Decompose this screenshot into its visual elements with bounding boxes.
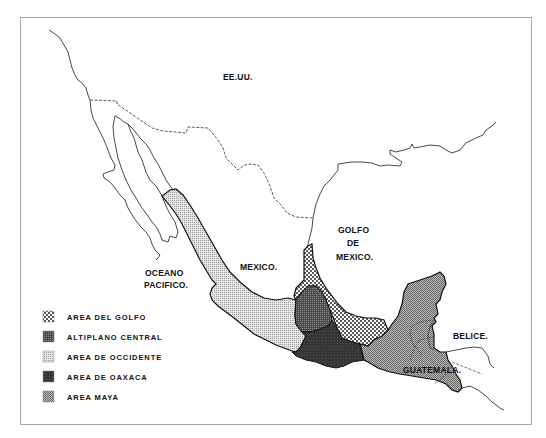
label-gulf-1: GOLFO [338, 225, 369, 235]
legend-label-occidente: AREA DE OCCIDENTE [67, 353, 162, 362]
label-ocean-2: PACIFICO. [144, 280, 188, 290]
label-gulf-2: DE [347, 238, 359, 248]
legend-label-maya: AREA MAYA [67, 393, 119, 402]
label-guatemala: GUATEMALA. [403, 365, 461, 375]
map-border [21, 18, 532, 425]
legend-swatch-altiplano [43, 331, 54, 342]
legend-label-altiplano: ALTIPLANO CENTRAL [67, 333, 163, 342]
label-mexico: MEXICO. [240, 262, 277, 272]
legend-swatch-oaxaca [43, 371, 54, 382]
legend-swatch-maya [43, 391, 54, 402]
label-usa: EE.UU. [223, 72, 253, 82]
label-belize: BELICE. [453, 331, 488, 341]
legend-swatch-occidente [43, 351, 54, 362]
legend-label-golfo: AREA DEL GOLFO [67, 313, 146, 322]
legend-swatch-golfo [43, 311, 54, 322]
legend-label-oaxaca: AREA DE OAXACA [67, 373, 148, 382]
label-ocean-1: OCEANO [145, 268, 184, 278]
mesoamerica-map: EE.UU. MEXICO. OCEANO PACIFICO. GOLFO DE… [0, 0, 546, 438]
label-gulf-3: MEXICO. [336, 252, 373, 262]
